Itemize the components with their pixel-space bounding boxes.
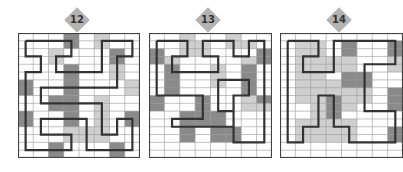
grid-cell[interactable]	[241, 64, 257, 72]
grid-cell[interactable]	[195, 80, 211, 88]
grid-cell[interactable]	[149, 127, 165, 135]
grid-cell[interactable]	[295, 96, 311, 104]
grid-cell[interactable]	[125, 80, 140, 88]
grid-cell[interactable]	[357, 119, 373, 127]
puzzle-grid-14[interactable]	[280, 33, 403, 158]
grid-cell[interactable]	[33, 41, 49, 49]
grid-cell[interactable]	[49, 72, 65, 80]
grid-cell[interactable]	[241, 96, 257, 104]
grid-cell[interactable]	[241, 127, 257, 135]
grid-cell[interactable]	[195, 127, 211, 135]
grid-cell[interactable]	[372, 80, 388, 88]
grid-cell[interactable]	[295, 88, 311, 96]
grid-cell[interactable]	[372, 119, 388, 127]
grid-cell[interactable]	[295, 142, 311, 150]
grid-cell[interactable]	[326, 142, 342, 150]
grid-cell[interactable]	[372, 96, 388, 104]
grid-cell[interactable]	[49, 41, 65, 49]
grid-cell[interactable]	[226, 150, 242, 158]
grid-cell[interactable]	[149, 103, 165, 111]
grid-cell[interactable]	[164, 80, 180, 88]
grid-cell[interactable]	[180, 80, 196, 88]
grid-cell[interactable]	[49, 88, 65, 96]
grid-cell[interactable]	[180, 56, 196, 64]
grid-cell[interactable]	[295, 41, 311, 49]
grid-cell[interactable]	[149, 96, 165, 104]
grid-cell[interactable]	[164, 150, 180, 158]
grid-cell[interactable]	[33, 150, 49, 158]
grid-cell[interactable]	[388, 72, 403, 80]
grid-cell[interactable]	[342, 80, 358, 88]
grid-cell[interactable]	[64, 103, 80, 111]
grid-cell[interactable]	[49, 119, 65, 127]
grid-cell[interactable]	[372, 64, 388, 72]
grid-cell[interactable]	[195, 135, 211, 143]
grid-cell[interactable]	[125, 88, 140, 96]
grid-cell[interactable]	[195, 142, 211, 150]
grid-cell[interactable]	[149, 119, 165, 127]
grid-cell[interactable]	[33, 135, 49, 143]
grid-cell[interactable]	[326, 135, 342, 143]
grid-cell[interactable]	[295, 80, 311, 88]
grid-cell[interactable]	[180, 150, 196, 158]
grid-cell[interactable]	[195, 150, 211, 158]
grid-cell[interactable]	[211, 41, 227, 49]
grid-cell[interactable]	[149, 111, 165, 119]
grid-cell[interactable]	[311, 127, 327, 135]
grid-cell[interactable]	[342, 72, 358, 80]
grid-cell[interactable]	[241, 150, 257, 158]
grid-cell[interactable]	[180, 72, 196, 80]
grid-cell[interactable]	[125, 103, 140, 111]
grid-cell[interactable]	[125, 56, 140, 64]
grid-cell[interactable]	[372, 142, 388, 150]
grid-cell[interactable]	[64, 88, 80, 96]
grid-cell[interactable]	[342, 41, 358, 49]
grid-cell[interactable]	[79, 41, 95, 49]
grid-cell[interactable]	[357, 142, 373, 150]
grid-cell[interactable]	[164, 142, 180, 150]
grid-cell[interactable]	[18, 150, 34, 158]
grid-cell[interactable]	[149, 150, 165, 158]
grid-cell[interactable]	[226, 64, 242, 72]
grid-cell[interactable]	[342, 111, 358, 119]
grid-cell[interactable]	[64, 150, 80, 158]
grid-cell[interactable]	[372, 127, 388, 135]
grid-cell[interactable]	[79, 150, 95, 158]
grid-cell[interactable]	[64, 56, 80, 64]
grid-cell[interactable]	[125, 72, 140, 80]
grid-cell[interactable]	[94, 72, 110, 80]
grid-cell[interactable]	[372, 111, 388, 119]
grid-cell[interactable]	[326, 80, 342, 88]
grid-cell[interactable]	[211, 127, 227, 135]
grid-cell[interactable]	[241, 119, 257, 127]
grid-cell[interactable]	[372, 88, 388, 96]
grid-cell[interactable]	[342, 150, 358, 158]
grid-cell[interactable]	[372, 150, 388, 158]
grid-cell[interactable]	[295, 150, 311, 158]
grid-cell[interactable]	[311, 80, 327, 88]
grid-cell[interactable]	[79, 49, 95, 57]
grid-cell[interactable]	[164, 41, 180, 49]
grid-cell[interactable]	[110, 150, 126, 158]
grid-cell[interactable]	[295, 72, 311, 80]
grid-cell[interactable]	[342, 56, 358, 64]
grid-cell[interactable]	[180, 135, 196, 143]
grid-cell[interactable]	[180, 127, 196, 135]
grid-cell[interactable]	[372, 72, 388, 80]
grid-cell[interactable]	[342, 142, 358, 150]
grid-cell[interactable]	[49, 135, 65, 143]
grid-cell[interactable]	[226, 142, 242, 150]
grid-cell[interactable]	[388, 150, 403, 158]
grid-cell[interactable]	[357, 150, 373, 158]
grid-cell[interactable]	[79, 33, 95, 41]
grid-cell[interactable]	[342, 96, 358, 104]
grid-cell[interactable]	[149, 142, 165, 150]
grid-cell[interactable]	[342, 49, 358, 57]
grid-cell[interactable]	[257, 142, 272, 150]
grid-cell[interactable]	[33, 103, 49, 111]
grid-cell[interactable]	[342, 64, 358, 72]
grid-cell[interactable]	[64, 72, 80, 80]
grid-cell[interactable]	[241, 103, 257, 111]
grid-cell[interactable]	[94, 135, 110, 143]
grid-cell[interactable]	[311, 135, 327, 143]
